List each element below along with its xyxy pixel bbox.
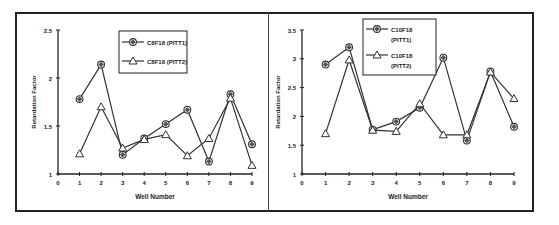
x-tick-label: 0 bbox=[56, 180, 60, 186]
x-tick-label: 1 bbox=[324, 180, 328, 186]
y-tick-label: 3 bbox=[293, 56, 297, 62]
x-tick-label: 4 bbox=[143, 180, 147, 186]
legend-label: (PITT1) bbox=[391, 37, 411, 43]
y-tick-label: 2 bbox=[49, 76, 53, 82]
y-tick-label: 1.5 bbox=[44, 124, 53, 130]
x-tick-label: 3 bbox=[121, 180, 125, 186]
x-tick-label: 6 bbox=[186, 180, 190, 186]
y-axis-label: Retardation Factor bbox=[275, 75, 281, 129]
triangle-marker-icon bbox=[205, 134, 213, 141]
chart-left-frame: 11.522.50123456789Well NumberRetardation… bbox=[15, 12, 269, 212]
triangle-marker-icon bbox=[322, 130, 330, 137]
x-tick-label: 2 bbox=[99, 180, 103, 186]
triangle-marker-icon bbox=[76, 150, 84, 157]
x-tick-label: 4 bbox=[395, 180, 399, 186]
legend-label: C8F18 (PITT2) bbox=[147, 59, 187, 65]
y-tick-label: 2.5 bbox=[288, 85, 297, 91]
x-axis-label: Well Number bbox=[135, 193, 175, 200]
x-tick-label: 5 bbox=[418, 180, 422, 186]
triangle-marker-icon bbox=[248, 161, 256, 168]
chart-right-frame: 11.522.533.50123456789Well NumberRetarda… bbox=[268, 12, 534, 212]
legend-label: (PITT2) bbox=[391, 63, 411, 69]
x-tick-label: 3 bbox=[371, 180, 375, 186]
x-tick-label: 9 bbox=[250, 180, 254, 186]
y-tick-label: 1.5 bbox=[288, 143, 297, 149]
legend-label: C8F18 (PITT1) bbox=[147, 40, 187, 46]
y-tick-label: 1 bbox=[293, 172, 297, 178]
x-tick-label: 6 bbox=[442, 180, 446, 186]
series-line-1 bbox=[80, 65, 252, 162]
y-tick-label: 3.5 bbox=[288, 28, 297, 34]
triangle-marker-icon bbox=[162, 131, 170, 138]
x-tick-label: 7 bbox=[465, 180, 469, 186]
legend-label: C10F18 bbox=[391, 27, 413, 33]
chart-right: 11.522.533.50123456789Well NumberRetarda… bbox=[269, 14, 532, 210]
triangle-marker-icon bbox=[97, 103, 105, 110]
y-tick-label: 2.5 bbox=[44, 28, 53, 34]
chart-left: 11.522.50123456789Well NumberRetardation… bbox=[17, 14, 268, 210]
x-tick-label: 2 bbox=[347, 180, 351, 186]
x-tick-label: 8 bbox=[489, 180, 493, 186]
legend bbox=[119, 31, 187, 73]
x-tick-label: 9 bbox=[512, 180, 516, 186]
x-tick-label: 5 bbox=[164, 180, 168, 186]
y-axis-label: Retardation Factor bbox=[31, 75, 37, 129]
x-tick-label: 0 bbox=[300, 180, 304, 186]
y-tick-label: 2 bbox=[293, 114, 297, 120]
legend-label: C10F18 bbox=[391, 53, 413, 59]
x-tick-label: 7 bbox=[207, 180, 211, 186]
x-tick-label: 8 bbox=[229, 180, 233, 186]
x-axis-label: Well Number bbox=[388, 193, 428, 200]
y-tick-label: 1 bbox=[49, 172, 53, 178]
x-tick-label: 1 bbox=[78, 180, 82, 186]
